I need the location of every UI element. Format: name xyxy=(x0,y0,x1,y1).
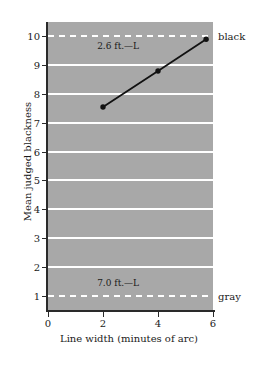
chart-figure: 2.6 ft.—L7.0 ft.—L 0246 12345678910 blac… xyxy=(0,0,278,371)
x-tick-0 xyxy=(48,312,49,317)
data-point xyxy=(155,68,160,73)
x-tick-label-6: 6 xyxy=(210,318,216,329)
y-tick-4 xyxy=(42,209,47,210)
y-tick-label-2: 2 xyxy=(34,261,40,272)
y-tick-8 xyxy=(42,94,47,95)
y-tick-6 xyxy=(42,152,47,153)
y-tick-9 xyxy=(42,65,47,66)
y-tick-label-6: 6 xyxy=(34,146,40,157)
x-tick-2 xyxy=(103,312,104,317)
y-tick-label-9: 9 xyxy=(34,60,40,71)
y-tick-label-5: 5 xyxy=(34,175,40,186)
x-tick-label-0: 0 xyxy=(45,318,51,329)
y-tick-label-4: 4 xyxy=(34,204,40,215)
data-point xyxy=(203,37,208,42)
data-series-line xyxy=(48,22,213,310)
y-tick-label-8: 8 xyxy=(34,89,40,100)
x-axis-line xyxy=(46,310,215,312)
x-tick-label-4: 4 xyxy=(155,318,161,329)
y-tick-label-7: 7 xyxy=(34,117,40,128)
y-axis-title: Mean judged blackness xyxy=(22,62,33,262)
x-tick-label-2: 2 xyxy=(100,318,106,329)
y-tick-2 xyxy=(42,267,47,268)
y-tick-label-10: 10 xyxy=(27,31,40,42)
x-tick-6 xyxy=(213,312,214,317)
y-tick-7 xyxy=(42,123,47,124)
annotation-2: 7.0 ft.—L xyxy=(97,278,139,288)
y-tick-1 xyxy=(42,296,47,297)
y-tick-label-1: 1 xyxy=(34,290,40,301)
plot-area: 2.6 ft.—L7.0 ft.—L xyxy=(48,22,213,310)
annotation-1: 2.6 ft.—L xyxy=(97,41,139,51)
side-label-black: black xyxy=(218,31,245,42)
data-point xyxy=(100,104,105,109)
y-tick-3 xyxy=(42,238,47,239)
x-axis-title: Line width (minutes of arc) xyxy=(0,333,258,344)
y-tick-10 xyxy=(42,36,47,37)
side-label-gray: gray xyxy=(218,290,241,301)
x-tick-4 xyxy=(158,312,159,317)
y-tick-label-3: 3 xyxy=(34,233,40,244)
y-tick-5 xyxy=(42,180,47,181)
